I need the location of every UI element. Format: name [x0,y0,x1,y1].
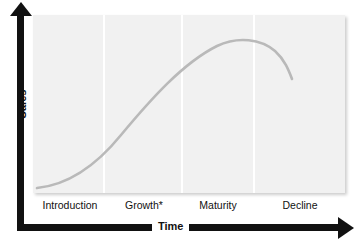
stage-band-growth [105,15,183,193]
stage-band-maturity [183,15,255,193]
x-axis-label: Time [152,220,189,232]
product-life-cycle-chart: Sales Time Introduction Growth* Maturity… [0,0,359,242]
y-axis-label: Sales [16,76,28,132]
stage-band-decline [255,15,345,193]
plot-area [33,15,345,193]
stage-label-decline: Decline [250,199,350,211]
arrow-right-icon [338,217,354,239]
stage-band-introduction [33,15,105,193]
arrow-up-icon [10,2,32,16]
